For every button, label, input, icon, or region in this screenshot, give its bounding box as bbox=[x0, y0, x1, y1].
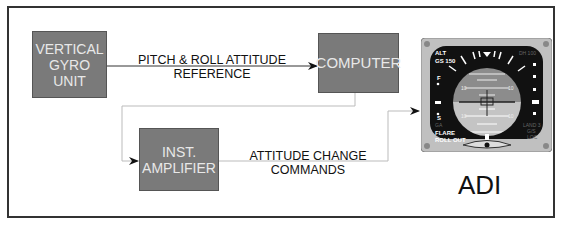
attitude-change-commands-label: ATTITUDE CHANGE COMMANDS bbox=[228, 149, 388, 177]
screw-icon bbox=[424, 143, 430, 149]
pitch-roll-reference-label: PITCH & ROLL ATTITUDE REFERENCE bbox=[112, 53, 312, 81]
svg-text:10: 10 bbox=[461, 85, 467, 91]
adi-instrument: ALT GS 150 F S FLARE ROLL OUT GA DH 100 … bbox=[421, 38, 552, 152]
svg-text:10: 10 bbox=[461, 113, 467, 119]
adi-label: ADI bbox=[458, 170, 501, 201]
screw-icon bbox=[543, 143, 549, 149]
svg-text:S: S bbox=[437, 115, 441, 121]
computer-block: COMPUTER bbox=[318, 33, 399, 93]
svg-text:FLARE: FLARE bbox=[435, 130, 455, 136]
vertical-gyro-unit-block: VERTICAL GYRO UNIT bbox=[32, 31, 107, 98]
svg-text:F: F bbox=[437, 75, 441, 81]
svg-text:LOC: LOC bbox=[527, 134, 538, 140]
inst-amplifier-block: INST. AMPLIFIER bbox=[139, 128, 219, 191]
svg-text:GA: GA bbox=[435, 122, 443, 128]
svg-text:GS 150: GS 150 bbox=[435, 58, 456, 64]
screw-icon bbox=[543, 41, 549, 47]
screw-icon bbox=[424, 41, 430, 47]
svg-text:10: 10 bbox=[508, 85, 514, 91]
svg-text:ROLL OUT: ROLL OUT bbox=[435, 137, 466, 143]
svg-text:ALT: ALT bbox=[435, 50, 447, 56]
svg-text:DH 100: DH 100 bbox=[519, 50, 536, 56]
svg-text:10: 10 bbox=[508, 113, 514, 119]
